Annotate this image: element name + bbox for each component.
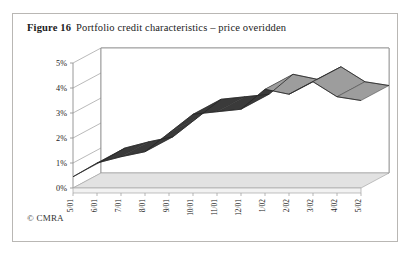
y-axis-tick-label: 5% (56, 59, 67, 68)
figure-caption: Figure 16Portfolio credit characteristic… (27, 22, 286, 33)
x-axis-tick-label: 7/01 (114, 199, 123, 212)
x-axis-tick-label: 10/01 (186, 199, 195, 216)
x-axis-tick-label: 2/02 (282, 199, 291, 212)
copyright-notice: © CMRA (27, 213, 64, 223)
chart-floor (73, 173, 389, 193)
ribbon-line-chart: 0%1%2%3%4%5% 5/016/017/018/019/0110/0111… (13, 38, 397, 218)
y-axis-tick-label: 2% (56, 134, 67, 143)
chart-plot-area: 0%1%2%3%4%5% 5/016/017/018/019/0110/0111… (13, 38, 397, 218)
x-axis-ticks-group: 5/016/017/018/019/0110/0111/0112/011/022… (66, 193, 363, 216)
x-axis-tick-label: 1/02 (258, 199, 267, 212)
figure-number: Figure 16 (27, 22, 71, 33)
y-axis-tick-label: 3% (56, 109, 67, 118)
x-axis-tick-label: 5/01 (66, 199, 75, 212)
chart-walls-group (101, 48, 389, 173)
figure-title-text: Portfolio credit characteristics – price… (76, 22, 286, 33)
y-axis-tick-label: 4% (56, 84, 67, 93)
x-axis-tick-label: 3/02 (306, 199, 315, 212)
x-axis-tick-label: 5/02 (354, 199, 363, 212)
x-axis-tick-label: 11/01 (210, 199, 219, 216)
y-axis-tick-label: 1% (56, 159, 67, 168)
x-axis-tick-label: 4/02 (330, 199, 339, 212)
x-axis-tick-label: 8/01 (138, 199, 147, 212)
y-axis-ticks-group: 0%1%2%3%4%5% (56, 59, 67, 193)
x-axis-tick-label: 6/01 (90, 199, 99, 212)
y-axis-tick-label: 0% (56, 184, 67, 193)
x-axis-tick-label: 9/01 (162, 199, 171, 212)
x-axis-tick-label: 12/01 (234, 199, 243, 216)
figure-container: Figure 16Portfolio credit characteristic… (12, 13, 398, 242)
